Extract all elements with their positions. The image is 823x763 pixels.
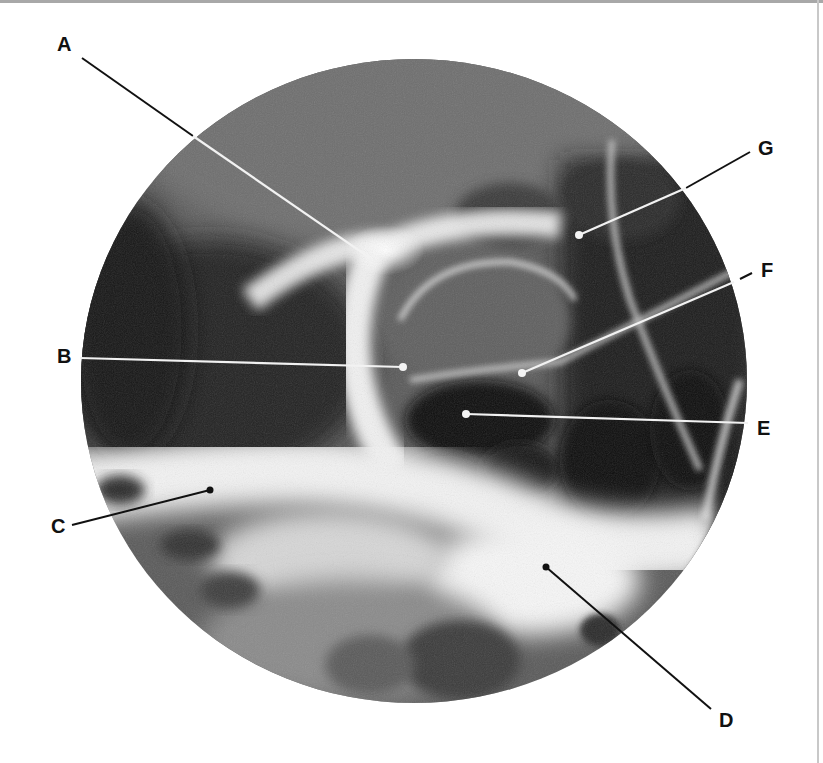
pointer-dot-e bbox=[462, 410, 470, 418]
pointer-dot-d bbox=[543, 564, 550, 571]
label-f: F bbox=[761, 260, 773, 280]
radiograph bbox=[0, 0, 823, 763]
label-b: B bbox=[57, 346, 71, 366]
leader-line-f-outer bbox=[740, 273, 752, 279]
label-c: C bbox=[51, 516, 65, 536]
label-a: A bbox=[57, 34, 71, 54]
leader-line-g-outer bbox=[686, 152, 750, 188]
label-e: E bbox=[757, 418, 770, 438]
leader-line-a bbox=[82, 58, 193, 136]
pointer-dot-f bbox=[518, 369, 526, 377]
pointer-dot-c bbox=[207, 487, 214, 494]
pointer-dot-b bbox=[399, 363, 407, 371]
label-g: G bbox=[758, 138, 774, 158]
label-d: D bbox=[719, 710, 733, 730]
circular-field bbox=[50, 30, 780, 730]
figure-frame: A B C D E F G bbox=[0, 0, 823, 763]
pointer-dot-g bbox=[575, 231, 583, 239]
